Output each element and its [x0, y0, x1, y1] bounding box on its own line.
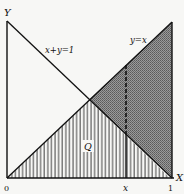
one-tick-label: 1	[168, 184, 173, 193]
line-label-x-plus-y: x+y=1	[45, 45, 74, 55]
origin-label: 0	[4, 184, 9, 193]
x-tick-label: x	[123, 183, 128, 193]
y-axis-label: Y	[4, 7, 12, 18]
probability-region-diagram: Y X 0 x 1 x+y=1 y=x Q	[0, 0, 184, 194]
x-axis-label: X	[175, 172, 184, 183]
line-label-y-equals-x: y=x	[129, 35, 147, 45]
region-q-label: Q	[84, 141, 92, 152]
